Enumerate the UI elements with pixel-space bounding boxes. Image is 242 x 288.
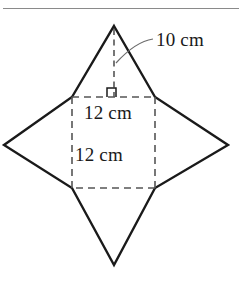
base-width-label: 12 cm: [84, 103, 132, 122]
slant-height-label: 10 cm: [156, 30, 204, 49]
geometry-figure: 10 cm 12 cm 12 cm: [0, 0, 242, 288]
base-depth-label: 12 cm: [75, 145, 123, 164]
